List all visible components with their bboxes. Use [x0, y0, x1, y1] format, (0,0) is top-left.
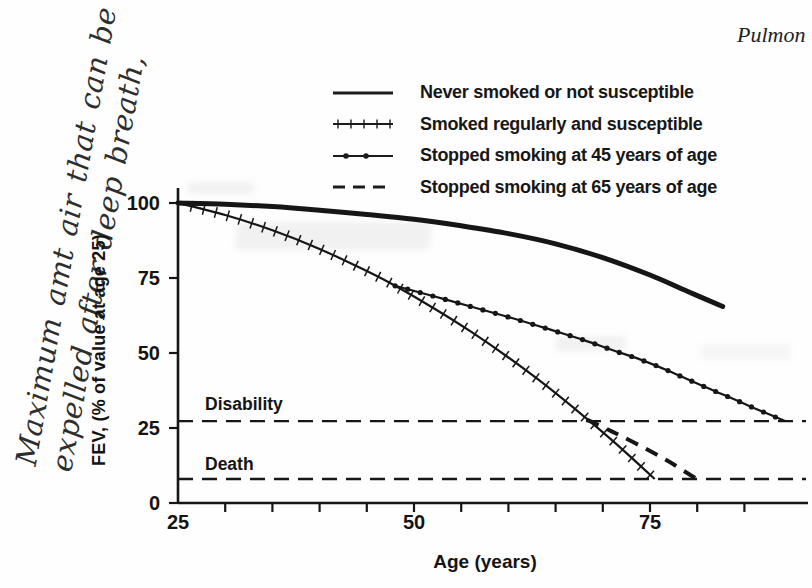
legend-label: Never smoked or not susceptible: [420, 82, 694, 103]
legend-label: Stopped smoking at 45 years of age: [420, 145, 717, 166]
y-axis-title: FEV, (% of value at age 25): [89, 234, 110, 466]
chart-legend: Never smoked or not susceptible Smoked r…: [332, 77, 717, 203]
scanned-page: Maximum amt air that can be expelled aft…: [0, 0, 812, 588]
death-threshold-label: Death: [205, 454, 254, 475]
x-tick-label-50: 50: [384, 511, 444, 534]
disability-threshold-label: Disability: [205, 394, 283, 415]
legend-item-smoked-regularly: Smoked regularly and susceptible: [332, 109, 717, 141]
x-axis-title: Age (years): [385, 551, 585, 573]
legend-dotted-line-icon: [332, 148, 394, 164]
legend-label: Stopped smoking at 65 years of age: [420, 177, 717, 198]
y-tick-label-100: 100: [100, 192, 160, 215]
x-tick-label-25: 25: [148, 511, 208, 534]
legend-solid-line-icon: [332, 85, 394, 101]
legend-item-stopped-at-45: Stopped smoking at 45 years of age: [332, 140, 717, 172]
legend-label: Smoked regularly and susceptible: [420, 114, 703, 135]
legend-item-never-smoked: Never smoked or not susceptible: [332, 77, 717, 109]
legend-item-stopped-at-65: Stopped smoking at 65 years of age: [332, 172, 717, 204]
legend-hatched-line-icon: [332, 116, 394, 132]
x-tick-label-75: 75: [620, 511, 680, 534]
legend-dashed-line-icon: [332, 179, 394, 195]
